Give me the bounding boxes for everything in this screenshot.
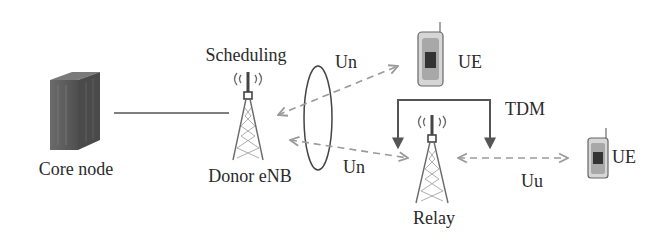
tdm-label: TDM [505,99,545,119]
scheduling-label: Scheduling [206,45,287,65]
un-lower-label: Un [343,157,365,177]
un-upper-label: Un [335,52,357,72]
mobile-phone-icon [418,22,443,86]
un-lower-link: Un [290,140,408,177]
server-icon [50,72,100,150]
uu-label: Uu [521,171,543,191]
tdm-bracket: TDM [398,99,545,147]
un-upper-link: Un [278,52,398,115]
relay-label: Relay [413,208,455,228]
ue-top: UE [418,22,482,86]
tower-icon [233,72,263,160]
scheduling-loop [304,66,332,170]
ue-top-label: UE [458,52,482,72]
relay: Relay [413,115,455,228]
core-node: Core node [39,72,113,179]
mobile-phone-icon [588,128,608,178]
relay-network-diagram: Core node Scheduling Donor eNB Un Un [0,0,671,242]
ue-right-label: UE [612,147,636,167]
uu-link: Uu [458,158,568,191]
tower-icon [416,115,448,203]
ue-right: UE [588,128,636,178]
donor-enb-label: Donor eNB [208,166,292,186]
core-node-label: Core node [39,159,113,179]
